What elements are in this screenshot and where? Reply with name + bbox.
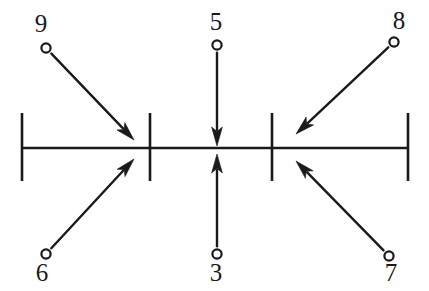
arrow-9-origin-dot (41, 43, 50, 52)
label-3: 3 (210, 259, 223, 286)
arrow-7-shaft (307, 172, 383, 250)
arrow-5-origin-dot (212, 40, 221, 49)
label-9: 9 (35, 10, 48, 37)
arrow-6 (41, 159, 134, 259)
diagram-canvas: 958637 (0, 0, 429, 291)
arrow-8-shaft (308, 47, 389, 123)
arrow-9-shaft (51, 54, 123, 129)
arrow-8 (296, 37, 399, 134)
arrow-6-shaft (51, 171, 123, 249)
label-6: 6 (36, 259, 49, 286)
arrow-9 (41, 43, 134, 140)
label-5: 5 (210, 8, 223, 35)
arrow-3-origin-dot (212, 249, 221, 258)
arrow-7 (296, 161, 394, 261)
label-7: 7 (385, 259, 398, 286)
axis-group (22, 113, 408, 181)
arrow-6-origin-dot (41, 249, 50, 258)
arrow-5 (212, 40, 223, 146)
arrow-8-origin-dot (389, 37, 398, 46)
number-line-diagram: 958637 (0, 0, 429, 291)
arrow-3 (212, 154, 223, 259)
label-8: 8 (393, 7, 406, 34)
